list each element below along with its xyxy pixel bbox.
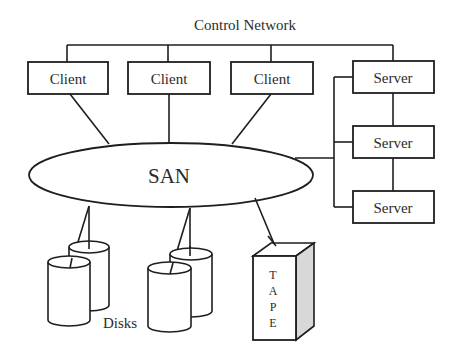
tape-letter: A [269,284,278,298]
server-label: Server [373,200,412,216]
server-node-2: Server [353,126,434,158]
tape-letter: P [270,300,277,314]
tape-letter: E [269,316,276,330]
server-label: Server [373,70,412,86]
client-node-2: Client [128,62,210,94]
control-network-bus [67,45,393,62]
control-network-title: Control Network [194,17,297,33]
disks-label: Disks [103,315,137,331]
san-label: SAN [148,164,190,188]
server-node-3: Server [353,191,434,223]
tape-drive-icon: T A P E [253,236,314,340]
server-label: Server [373,135,412,151]
tape-letter: T [269,268,277,282]
client-node-3: Client [231,62,313,94]
client-san-links [70,94,271,144]
server-node-1: Server [353,61,434,93]
disk-icon [148,262,191,332]
client-node-1: Client [28,62,108,94]
san-cloud: SAN [29,143,313,207]
client-label: Client [50,71,87,87]
disk-icon [48,256,90,326]
client-label: Client [151,71,188,87]
client-label: Client [254,71,291,87]
san-architecture-diagram: Control Network Client Client Client Ser… [0,0,458,354]
